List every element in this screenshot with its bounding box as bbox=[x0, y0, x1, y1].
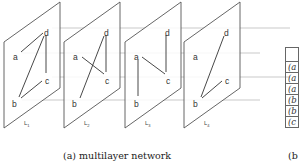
table-header-cell bbox=[286, 48, 299, 62]
table-row: (a bbox=[286, 73, 299, 84]
table-row: (b bbox=[286, 95, 299, 106]
node-b: b bbox=[193, 99, 198, 109]
table-row: (a bbox=[286, 84, 299, 95]
edge-table: (a (a (a (b (b (c bbox=[285, 47, 299, 128]
table-cell: (a bbox=[286, 73, 299, 84]
node-d: d bbox=[104, 28, 109, 38]
layer-4: d a c b L4 bbox=[184, 2, 240, 128]
layer-1: d a c b L1 bbox=[4, 2, 60, 128]
node-b: b bbox=[12, 99, 17, 109]
node-d: d bbox=[44, 28, 49, 38]
layer-label-1: L1 bbox=[24, 120, 30, 128]
table-header-row bbox=[286, 48, 299, 62]
node-b: b bbox=[72, 99, 77, 109]
layer-label-4: L4 bbox=[204, 120, 210, 128]
multilayer-network-figure: d a c b L1 d a c b L2 bbox=[0, 0, 299, 168]
table-row: (a bbox=[286, 62, 299, 73]
node-d: d bbox=[165, 28, 170, 38]
table-row: (c bbox=[286, 117, 299, 128]
table-cell: (c bbox=[286, 117, 299, 128]
layer-label-3: L3 bbox=[145, 120, 151, 128]
caption-multilayer-network: (a) multilayer network bbox=[63, 150, 171, 161]
table-cell: (b bbox=[286, 95, 299, 106]
table-cell: (a bbox=[286, 62, 299, 73]
table-cell: (b bbox=[286, 106, 299, 117]
caption-b: (b bbox=[288, 150, 298, 161]
layer-3: d a c b L3 bbox=[125, 2, 181, 128]
layer-label-2: L2 bbox=[84, 120, 90, 128]
layer-2: d a c b L2 bbox=[64, 2, 120, 128]
node-a: a bbox=[193, 52, 198, 62]
node-a: a bbox=[134, 52, 139, 62]
table-cell: (a bbox=[286, 84, 299, 95]
table-row: (b bbox=[286, 106, 299, 117]
node-b: b bbox=[134, 99, 139, 109]
node-a: a bbox=[13, 52, 18, 62]
node-d: d bbox=[224, 28, 229, 38]
node-a: a bbox=[73, 52, 78, 62]
